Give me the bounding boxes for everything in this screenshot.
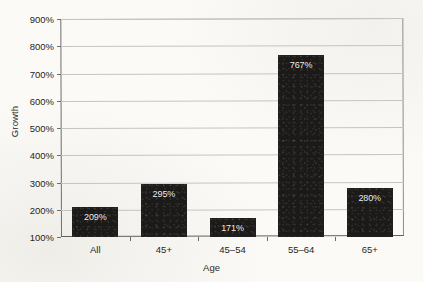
bar: 767% bbox=[278, 55, 324, 237]
plot-area: 900%800%700%600%500%400%300%200%100% 209… bbox=[61, 19, 404, 237]
y-axis-title: Growth bbox=[9, 86, 20, 158]
y-axis-tick bbox=[57, 74, 61, 75]
x-axis-category-label: 45–54 bbox=[219, 244, 245, 255]
bar-value-label: 280% bbox=[347, 193, 393, 203]
bar: 295% bbox=[141, 184, 187, 237]
y-axis-label: 500% bbox=[30, 123, 54, 134]
y-axis-tick bbox=[57, 210, 61, 211]
y-axis-label: 600% bbox=[30, 95, 54, 106]
y-axis-label: 300% bbox=[30, 177, 54, 188]
x-axis-category-label: All bbox=[90, 244, 101, 255]
bar-value-label: 171% bbox=[210, 223, 256, 233]
bar-chart: Growth 900%800%700%600%500%400%300%200%1… bbox=[0, 0, 423, 282]
y-axis-tick bbox=[57, 237, 61, 238]
y-axis-tick bbox=[57, 46, 61, 47]
x-axis-category-label: 45+ bbox=[156, 244, 172, 255]
y-axis-tick bbox=[57, 183, 61, 184]
y-axis-tick bbox=[57, 128, 61, 129]
bar-value-label: 209% bbox=[72, 212, 118, 222]
x-axis-category-label: 65+ bbox=[362, 244, 378, 255]
x-axis-category-label: 55–64 bbox=[288, 244, 314, 255]
x-axis-tick bbox=[267, 237, 268, 241]
y-axis-tick bbox=[57, 101, 61, 102]
y-axis-label: 100% bbox=[30, 232, 54, 243]
x-axis-tick bbox=[198, 237, 199, 241]
x-axis-tick bbox=[130, 237, 131, 241]
bar: 171% bbox=[210, 218, 256, 237]
y-axis-tick bbox=[57, 19, 61, 20]
bar-value-label: 767% bbox=[278, 60, 324, 70]
bar: 280% bbox=[347, 188, 393, 237]
x-axis-tick bbox=[335, 237, 336, 241]
y-axis-tick bbox=[57, 155, 61, 156]
x-axis-title: Age bbox=[0, 262, 423, 273]
bar-value-label: 295% bbox=[141, 189, 187, 199]
y-axis-label: 200% bbox=[30, 204, 54, 215]
y-axis-label: 400% bbox=[30, 150, 54, 161]
y-axis-label: 900% bbox=[30, 14, 54, 25]
bar: 209% bbox=[72, 207, 118, 237]
y-axis-label: 800% bbox=[30, 41, 54, 52]
y-axis-label: 700% bbox=[30, 68, 54, 79]
